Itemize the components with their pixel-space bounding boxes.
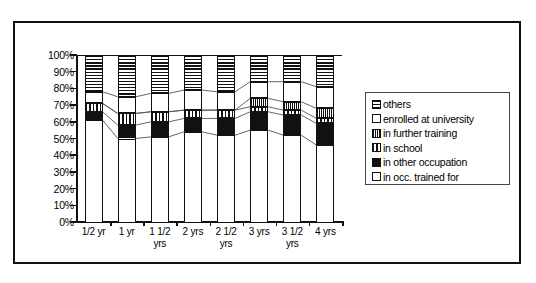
legend-item[interactable]: in school bbox=[372, 141, 509, 155]
bar-segment bbox=[218, 118, 234, 135]
legend-swatch-icon bbox=[372, 172, 381, 181]
y-axis-tick bbox=[70, 205, 77, 207]
stacked-bar bbox=[250, 55, 268, 222]
bar-segment bbox=[86, 120, 102, 222]
bar-segment bbox=[284, 115, 300, 135]
legend-item-label: others bbox=[383, 98, 411, 110]
x-axis-tick bbox=[176, 221, 178, 226]
bar-segment bbox=[251, 130, 267, 222]
bar-segment bbox=[218, 110, 234, 118]
bar-segment bbox=[152, 93, 168, 111]
stacked-bar bbox=[85, 55, 103, 222]
legend-swatch-icon bbox=[372, 129, 381, 138]
bar-segment bbox=[152, 55, 168, 93]
y-axis-tick bbox=[70, 221, 77, 223]
bar-segment bbox=[119, 125, 135, 138]
legend-swatch-icon bbox=[372, 143, 381, 152]
bar-segment bbox=[185, 110, 201, 118]
bar-segment bbox=[152, 137, 168, 222]
bar-segment bbox=[251, 112, 267, 130]
stacked-bar bbox=[151, 55, 169, 222]
bar-segment bbox=[218, 92, 234, 110]
y-axis-tick bbox=[70, 104, 77, 106]
bar-segment bbox=[317, 87, 333, 109]
bar-segment bbox=[86, 92, 102, 104]
stacked-bar bbox=[283, 55, 301, 222]
x-axis-tick bbox=[276, 221, 278, 226]
bar-segment bbox=[218, 135, 234, 222]
legend-item[interactable]: in further training bbox=[372, 126, 509, 140]
x-axis-tick bbox=[210, 221, 212, 226]
bar-segment bbox=[284, 55, 300, 82]
y-axis-tick bbox=[70, 88, 77, 90]
bar-segment bbox=[284, 102, 300, 110]
bar-segment bbox=[317, 123, 333, 145]
bar-segment bbox=[251, 55, 267, 82]
legend-item[interactable]: enrolled at university bbox=[372, 112, 509, 126]
legend-item[interactable]: in occ. trained for bbox=[372, 170, 509, 184]
bar-segment bbox=[86, 55, 102, 92]
bar-segment bbox=[86, 112, 102, 120]
bar-segment bbox=[317, 55, 333, 87]
y-axis-tick bbox=[70, 138, 77, 140]
bar-segment bbox=[251, 107, 267, 112]
bar-segment bbox=[119, 139, 135, 223]
bar-segment bbox=[185, 90, 201, 110]
stacked-bar bbox=[184, 55, 202, 222]
bar-segment bbox=[185, 55, 201, 90]
bar-segment bbox=[218, 55, 234, 92]
legend-item-label: in school bbox=[383, 142, 422, 154]
x-axis-tick bbox=[342, 221, 344, 226]
bar-segment bbox=[119, 55, 135, 97]
chart-legend: othersenrolled at universityin further t… bbox=[365, 92, 510, 185]
bar-segment bbox=[119, 97, 135, 114]
legend-item[interactable]: others bbox=[372, 97, 509, 111]
x-axis-tick-label: 4 yrs bbox=[303, 226, 347, 238]
bar-segment bbox=[251, 98, 267, 106]
bar-segment bbox=[317, 108, 333, 118]
x-axis-tick bbox=[243, 221, 245, 226]
bar-segment bbox=[152, 112, 168, 122]
bar-segment bbox=[284, 110, 300, 115]
x-axis-labels: 1/2 yr1 yr1 1/2 yrs2 yrs2 1/2 yrs3 yrs3 … bbox=[0, 226, 536, 266]
bar-segment bbox=[284, 135, 300, 222]
chart-figure: 100%90%80%70%60%50%40%30%20%10%0% 1/2 yr… bbox=[0, 0, 536, 283]
x-axis-tick bbox=[143, 221, 145, 226]
y-axis-tick bbox=[70, 154, 77, 156]
y-axis-tick bbox=[70, 71, 77, 73]
y-axis-tick bbox=[70, 54, 77, 56]
stacked-bar bbox=[217, 55, 235, 222]
x-axis-tick bbox=[309, 221, 311, 226]
y-axis-tick bbox=[70, 188, 77, 190]
stacked-bar bbox=[316, 55, 334, 222]
legend-item-label: in occ. trained for bbox=[383, 171, 459, 183]
bar-segment bbox=[185, 132, 201, 222]
bar-segment bbox=[251, 82, 267, 99]
legend-swatch-icon bbox=[372, 100, 381, 109]
bar-segment bbox=[119, 113, 135, 125]
legend-swatch-icon bbox=[372, 158, 381, 167]
bar-segment bbox=[317, 118, 333, 123]
bar-segment bbox=[86, 103, 102, 111]
x-axis-tick bbox=[110, 221, 112, 226]
legend-item[interactable]: in other occupation bbox=[372, 155, 509, 169]
stacked-bar bbox=[118, 55, 136, 222]
legend-swatch-icon bbox=[372, 114, 381, 123]
y-axis-tick bbox=[70, 121, 77, 123]
bar-segment bbox=[185, 118, 201, 131]
legend-item-label: in other occupation bbox=[383, 156, 467, 168]
y-axis-tick bbox=[70, 171, 77, 173]
bar-segment bbox=[152, 122, 168, 137]
bar-segment bbox=[284, 82, 300, 102]
legend-item-label: in further training bbox=[383, 127, 457, 139]
bar-segment bbox=[317, 145, 333, 222]
legend-item-label: enrolled at university bbox=[383, 113, 474, 125]
